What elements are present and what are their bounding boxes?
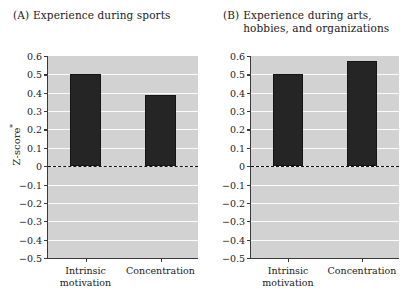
y-axis-tick-label: −0.1 [222, 179, 245, 190]
y-axis-tick-label: −0.2 [222, 197, 245, 208]
bar [70, 74, 101, 166]
y-axis-tick-label: −0.5 [19, 253, 42, 264]
y-axis-tick [247, 185, 251, 186]
panel-a-title-text: Experience during sports [33, 9, 170, 22]
y-axis-tick [44, 93, 48, 94]
y-axis-tick [44, 203, 48, 204]
x-axis-tick-label-b-1: Concentration [319, 265, 403, 277]
y-axis-tick [44, 74, 48, 75]
y-axis-tick-label: −0.2 [19, 197, 42, 208]
y-axis-tick-label: 0.5 [27, 69, 42, 80]
y-axis-label-footnote: * [8, 124, 17, 128]
y-axis-tick [247, 56, 251, 57]
y-axis-tick [44, 240, 48, 241]
y-axis-tick [247, 258, 251, 259]
y-axis-label-text: Z-score [11, 128, 22, 166]
y-axis-tick [44, 111, 48, 112]
bar [273, 74, 303, 166]
zero-reference-line [251, 166, 399, 167]
y-axis-tick-label: 0 [239, 161, 245, 172]
y-axis-label: Z-score* [8, 110, 21, 180]
x-axis-tick-label-a-1: Concentration [118, 265, 204, 277]
y-axis-tick [44, 148, 48, 149]
panel-b-title-text: Experience during arts, hobbies, and org… [243, 9, 403, 34]
gridline [251, 221, 399, 222]
y-axis-tick-label: 0 [36, 161, 42, 172]
y-axis-tick-label: 0.3 [27, 106, 42, 117]
y-axis-tick [247, 93, 251, 94]
gridline [48, 185, 198, 186]
y-axis-tick [44, 185, 48, 186]
panel-b-title: (B)Experience during arts, hobbies, and … [223, 9, 397, 34]
y-axis-tick-label: −0.3 [222, 216, 245, 227]
y-axis-tick-label: 0.3 [230, 106, 245, 117]
y-axis-tick [44, 56, 48, 57]
panel-b-tag: (B) [223, 9, 239, 22]
gridline [48, 203, 198, 204]
y-axis-tick [247, 240, 251, 241]
panel-b-plot-area: 0.60.50.40.30.20.10−0.1−0.2−0.3−0.4−0.5I… [250, 56, 399, 258]
x-axis-tick [161, 258, 162, 262]
y-axis-tick-label: −0.1 [19, 179, 42, 190]
y-axis-tick-label: 0.5 [230, 69, 245, 80]
x-axis-tick [288, 258, 289, 262]
panel-a-tag: (A) [13, 9, 29, 22]
y-axis-tick [247, 74, 251, 75]
y-axis-tick [247, 221, 251, 222]
x-axis-tick-label-a-0: Intrinsic motivation [43, 265, 129, 288]
y-axis-tick [247, 148, 251, 149]
y-axis-tick [247, 203, 251, 204]
gridline [48, 240, 198, 241]
x-axis-tick [362, 258, 363, 262]
y-axis-tick-label: 0.1 [27, 142, 42, 153]
gridline [251, 240, 399, 241]
gridline [251, 185, 399, 186]
gridline [251, 203, 399, 204]
y-axis-tick [247, 111, 251, 112]
panel-a-plot-area: 0.60.50.40.30.20.10−0.1−0.2−0.3−0.4−0.5I… [47, 56, 198, 258]
panel-a-x-axis-line [48, 258, 198, 259]
y-axis-tick-label: 0.2 [27, 124, 42, 135]
panel-a-title: (A)Experience during sports [13, 9, 171, 22]
panel-a: (A)Experience during sports Z-score* 0.6… [0, 0, 205, 304]
panel-b: (B)Experience during arts, hobbies, and … [205, 0, 397, 304]
y-axis-tick-label: 0.2 [230, 124, 245, 135]
y-axis-tick-label: 0.1 [230, 142, 245, 153]
panel-b-x-axis-line [251, 258, 399, 259]
y-axis-tick-label: 0.6 [27, 51, 42, 62]
zero-reference-line [48, 166, 198, 167]
gridline [48, 221, 198, 222]
y-axis-tick-label: 0.6 [230, 51, 245, 62]
y-axis-tick-label: −0.5 [222, 253, 245, 264]
y-axis-tick [44, 129, 48, 130]
y-axis-tick-label: −0.4 [222, 234, 245, 245]
y-axis-tick [247, 129, 251, 130]
bar [145, 95, 176, 166]
x-axis-tick [86, 258, 87, 262]
y-axis-tick-label: 0.4 [230, 87, 245, 98]
y-axis-tick-label: 0.4 [27, 87, 42, 98]
y-axis-tick [44, 258, 48, 259]
y-axis-tick [44, 221, 48, 222]
bar [347, 61, 377, 167]
y-axis-tick-label: −0.4 [19, 234, 42, 245]
y-axis-tick-label: −0.3 [19, 216, 42, 227]
